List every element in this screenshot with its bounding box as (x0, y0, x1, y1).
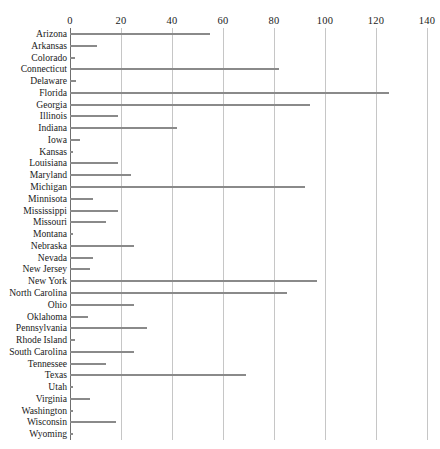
bar-north-carolina (70, 292, 287, 294)
category-label-indiana: Indiana (0, 122, 67, 135)
bar-row (70, 75, 427, 88)
category-label-pennsylvania: Pennsylvania (0, 322, 67, 335)
bar-iowa (70, 139, 80, 141)
bar-rows (70, 28, 427, 440)
x-tick-label-60: 60 (218, 15, 229, 26)
bar-row (70, 52, 427, 65)
bar-washington (70, 410, 73, 412)
bar-nevada (70, 257, 93, 259)
x-tick-label-120: 120 (368, 15, 384, 26)
category-label-minnisota: Minnisota (0, 193, 67, 206)
x-tick-label-140: 140 (419, 15, 435, 26)
bar-texas (70, 374, 246, 376)
bar-row (70, 99, 427, 112)
bar-row (70, 40, 427, 53)
category-label-nevada: Nevada (0, 252, 67, 265)
bar-colorado (70, 57, 75, 59)
category-label-montana: Montana (0, 228, 67, 241)
bar-tennessee (70, 363, 106, 365)
bar-georgia (70, 104, 310, 106)
bar-row (70, 134, 427, 147)
plot-area (70, 28, 427, 440)
category-label-kansas: Kansas (0, 146, 67, 159)
category-label-arizona: Arizona (0, 28, 67, 41)
x-tick-label-100: 100 (317, 15, 333, 26)
bar-kansas (70, 151, 73, 153)
category-label-utah: Utah (0, 381, 67, 394)
bar-row (70, 346, 427, 359)
category-label-tennessee: Tennessee (0, 358, 67, 371)
bar-row (70, 228, 427, 241)
x-tick-label-20: 20 (116, 15, 127, 26)
category-label-wisconsin: Wisconsin (0, 416, 67, 429)
bar-arizona (70, 33, 210, 35)
category-label-wyoming: Wyoming (0, 428, 67, 441)
bar-row (70, 405, 427, 418)
category-label-rhode-island: Rhode Island (0, 334, 67, 347)
bar-row (70, 416, 427, 429)
bar-row (70, 181, 427, 194)
bar-michigan (70, 186, 305, 188)
bar-row (70, 287, 427, 300)
bar-indiana (70, 127, 177, 129)
bar-illinois (70, 115, 118, 117)
bar-row (70, 205, 427, 218)
bar-south-carolina (70, 351, 134, 353)
bar-row (70, 169, 427, 182)
bar-row (70, 275, 427, 288)
bar-delaware (70, 80, 76, 82)
category-label-nebraska: Nebraska (0, 240, 67, 253)
category-label-colorado: Colorado (0, 52, 67, 65)
bar-louisiana (70, 162, 118, 164)
bar-row (70, 193, 427, 206)
gridline-140 (427, 28, 428, 440)
category-label-oklahoma: Oklahoma (0, 311, 67, 324)
category-label-georgia: Georgia (0, 99, 67, 112)
category-label-illinois: Illinois (0, 110, 67, 123)
bar-row (70, 322, 427, 335)
x-axis-tick-labels: 020406080100120140 (0, 15, 440, 28)
bar-row (70, 393, 427, 406)
x-tick-label-40: 40 (167, 15, 178, 26)
category-label-iowa: Iowa (0, 134, 67, 147)
bar-wyoming (70, 433, 73, 435)
bar-mississippi (70, 210, 118, 212)
bar-ohio (70, 304, 134, 306)
x-tick-label-0: 0 (67, 15, 72, 26)
category-label-missouri: Missouri (0, 216, 67, 229)
bar-montana (70, 233, 73, 235)
x-tick-label-80: 80 (269, 15, 280, 26)
bar-chart: 020406080100120140 ArizonaArkansasColora… (0, 0, 440, 449)
category-label-delaware: Delaware (0, 75, 67, 88)
bar-maryland (70, 174, 131, 176)
bar-row (70, 110, 427, 123)
bar-row (70, 157, 427, 170)
bar-missouri (70, 221, 106, 223)
category-label-maryland: Maryland (0, 169, 67, 182)
bar-row (70, 358, 427, 371)
bar-row (70, 240, 427, 253)
category-label-ohio: Ohio (0, 299, 67, 312)
category-label-texas: Texas (0, 369, 67, 382)
bar-row (70, 369, 427, 382)
category-label-connecticut: Connecticut (0, 63, 67, 76)
bar-new-york (70, 280, 317, 282)
bar-row (70, 381, 427, 394)
bar-nebraska (70, 245, 134, 247)
category-label-virginia: Virginia (0, 393, 67, 406)
bar-row (70, 311, 427, 324)
category-label-new-york: New York (0, 275, 67, 288)
category-label-south-carolina: South Carolina (0, 346, 67, 359)
bar-row (70, 263, 427, 276)
bar-row (70, 334, 427, 347)
category-axis-labels: ArizonaArkansasColoradoConnecticutDelawa… (0, 28, 67, 440)
bar-wisconsin (70, 421, 116, 423)
bar-arkansas (70, 45, 97, 47)
category-label-new-jersey: New Jersey (0, 263, 67, 276)
bar-row (70, 299, 427, 312)
category-label-louisiana: Louisiana (0, 157, 67, 170)
category-label-florida: Florida (0, 87, 67, 100)
bar-virginia (70, 398, 90, 400)
category-label-mississippi: Mississippi (0, 205, 67, 218)
bar-row (70, 216, 427, 229)
